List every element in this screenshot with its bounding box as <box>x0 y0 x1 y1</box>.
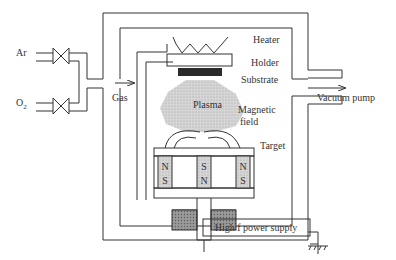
magnet-right: N S <box>236 156 250 188</box>
holder-plate <box>167 54 232 66</box>
svg-text:N: N <box>200 175 207 186</box>
svg-text:S: S <box>240 175 246 186</box>
gas-label: Gas <box>112 92 128 103</box>
o2-label: O2 <box>16 97 27 111</box>
magnetic-field-arcs <box>165 131 240 148</box>
substrate <box>178 68 222 76</box>
ar-label: Ar <box>16 47 27 58</box>
vacuum-pump-label: Vacuum pump <box>317 92 375 103</box>
heater-icon <box>173 37 228 53</box>
power-supply-label: High f power supply <box>215 222 298 233</box>
substrate-label: Substrate <box>241 74 279 85</box>
svg-text:S: S <box>162 175 168 186</box>
svg-text:N: N <box>161 161 168 172</box>
magnetic-field-label-2: field <box>240 116 258 127</box>
svg-text:S: S <box>201 161 207 172</box>
magnetic-field-label-1: Magnetic <box>238 104 276 115</box>
power-wiring <box>204 232 318 254</box>
ar-valve-icon <box>53 48 69 64</box>
o2-valve-icon <box>53 98 69 114</box>
magnet-left: N S <box>158 156 172 188</box>
magnet-center: S N <box>197 156 211 188</box>
svg-text:N: N <box>239 161 246 172</box>
target-label: Target <box>260 140 285 151</box>
holder-label: Holder <box>251 57 279 68</box>
plasma-label: Plasma <box>193 99 222 110</box>
heater-label: Heater <box>253 34 280 45</box>
sputtering-diagram: N S S N N S High f power supply Ar <box>0 0 396 260</box>
